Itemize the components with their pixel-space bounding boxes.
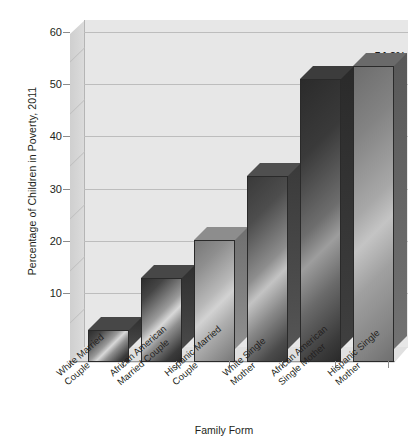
bar-hispanic-single-mother[interactable] [353,66,394,362]
y-tick-label: 50 [28,78,62,90]
y-tick-mark [63,241,70,242]
bar-side-face [394,53,407,349]
bar-front-face [247,176,288,362]
y-tick-mark [63,189,70,190]
x-tick-mark [388,361,389,368]
y-tick-mark [63,293,70,294]
bar-african-american-single-mother[interactable] [300,79,341,362]
x-axis-title: Family Form [0,424,420,436]
bar-front-face [353,66,394,362]
bar-front-face [300,79,341,362]
bar-chart: Percentage of Children in Poverty, 2011 … [0,0,420,448]
y-tick-mark [63,84,70,85]
y-tick-label: 60 [28,26,62,38]
y-tick-label: 20 [28,235,62,247]
y-tick-label: 30 [28,183,62,195]
y-tick-label: 40 [28,130,62,142]
y-tick-mark [63,32,70,33]
bar-white-single-mother[interactable] [247,176,288,362]
y-tick-mark [63,136,70,137]
bars: 6.1% 16.0% 23.2% 35.5% 54.2% [70,20,408,362]
y-tick-label: 10 [28,287,62,299]
y-axis-tick-labels: 60 50 40 30 20 10 [22,0,62,448]
